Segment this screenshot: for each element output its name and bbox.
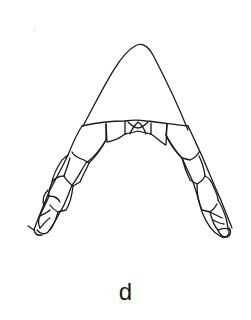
panel-label: d (0, 278, 251, 306)
band-cell (49, 196, 60, 202)
left-arm-outer (28, 126, 82, 230)
dust-speck (34, 30, 35, 31)
band-cell (166, 124, 199, 160)
band-cell (50, 212, 58, 230)
band-cell (151, 124, 167, 145)
band-cell (72, 124, 106, 163)
band-cell (199, 156, 205, 176)
arch-outline (83, 44, 188, 130)
band-cell (213, 220, 224, 224)
band-cell (40, 218, 50, 228)
figure-panel: d (0, 0, 251, 320)
cross-section-drawing (0, 0, 251, 320)
band-cell (106, 124, 125, 142)
